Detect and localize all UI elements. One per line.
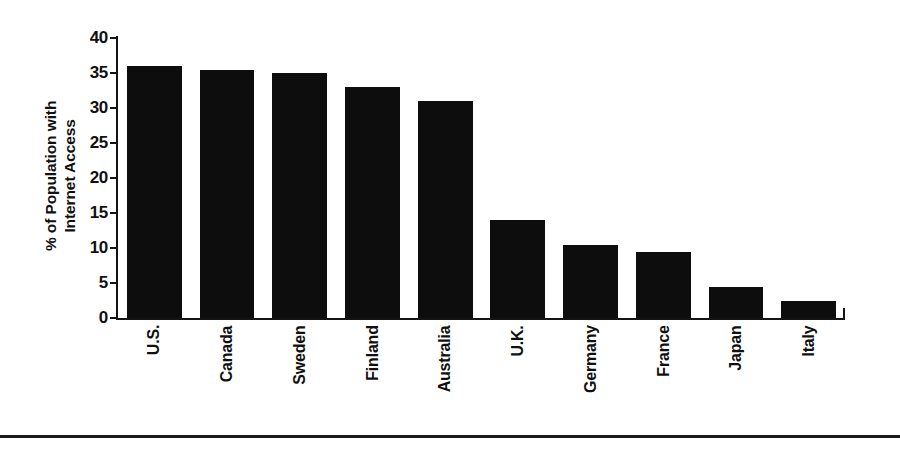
x-tick-label: Italy [800,325,818,356]
bar [127,66,182,318]
y-tick-label: 10 [90,238,108,258]
x-tick-label: Finland [363,325,381,380]
bar [490,220,545,318]
x-axis-end-tick [843,308,845,320]
x-tick-label-slot: France [627,322,700,422]
x-axis-line [116,318,845,320]
x-tick-label-slot: U.K. [482,322,555,422]
y-tick-label: 30 [90,98,108,118]
x-tick-label-slot: Japan [700,322,773,422]
y-tick-label: 25 [90,133,108,153]
x-tick-label: Sweden [291,325,309,384]
bar [345,87,400,318]
x-tick-label: Germany [582,325,600,393]
x-tick-label-slot: Italy [772,322,845,422]
bar-chart-figure: % of Population with Internet Access 051… [0,0,900,450]
x-tick-label-slot: Finland [336,322,409,422]
y-tick-label: 35 [90,63,108,83]
bar [781,301,836,319]
bar [418,101,473,318]
x-tick-label: U.K. [509,325,527,356]
x-tick-label: Japan [727,325,745,370]
y-tick-label: 40 [90,28,108,48]
x-tick-label-slot: Sweden [263,322,336,422]
x-tick-label-slot: Germany [554,322,627,422]
x-axis-category-labels: U.S.CanadaSwedenFinlandAustraliaU.K.Germ… [118,322,845,422]
bar [709,287,764,318]
y-axis-title-line-1: % of Population with [42,101,61,251]
bar [563,245,618,318]
x-tick-label-slot: Australia [409,322,482,422]
x-tick-label-slot: U.S. [118,322,191,422]
plot-area [118,36,845,320]
x-tick-label-slot: Canada [191,322,264,422]
x-tick-label: Australia [436,325,454,392]
footer-divider [0,435,900,438]
x-tick-label: U.S. [145,325,163,355]
x-tick-label: France [654,325,672,376]
y-tick-label: 20 [90,168,108,188]
y-tick-label: 5 [99,273,108,293]
y-axis-tick-labels: 0510152025303540 [78,0,118,450]
bar [200,70,255,319]
y-tick-label: 15 [90,203,108,223]
x-tick-label: Canada [218,325,236,382]
bar [272,73,327,318]
y-axis-line [116,36,118,320]
bar [636,252,691,318]
y-tick-label: 0 [99,308,108,328]
